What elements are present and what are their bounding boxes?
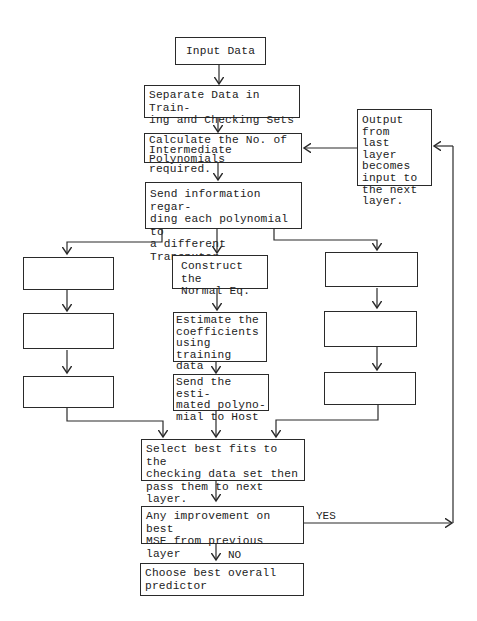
choose-best-predictor-box: Choose best overall predictor (140, 563, 304, 596)
send-estimated-polynomial-box: Send the esti- mated polyno- mial to Hos… (173, 374, 269, 411)
construct-normal-eq-box: Construct the Normal Eq. (172, 255, 268, 289)
improvement-decision-box: Any improvement on best MSE from previou… (141, 506, 304, 544)
calculate-polynomials-box: Calculate the No. of Intermediate Polyno… (144, 133, 302, 163)
left-box-1 (23, 257, 114, 290)
feedback-note-box: Output from last layer becomes input to … (357, 109, 432, 186)
send-information-box: Send information regar- ding each polyno… (145, 182, 302, 229)
right-box-2 (324, 311, 417, 347)
select-best-fits-box: Select best fits to the checking data se… (141, 439, 305, 481)
input-data-box: Input Data (175, 37, 266, 65)
left-box-2 (23, 313, 114, 349)
separate-data-box: Separate Data in Train- ing and Checking… (144, 85, 300, 118)
estimate-coefficients-box: Estimate the coefficients using training… (173, 312, 267, 362)
no-label: NO (228, 549, 241, 561)
right-box-3 (324, 372, 416, 405)
left-box-3 (23, 376, 114, 408)
right-box-1 (325, 252, 418, 287)
yes-label: YES (316, 510, 336, 522)
